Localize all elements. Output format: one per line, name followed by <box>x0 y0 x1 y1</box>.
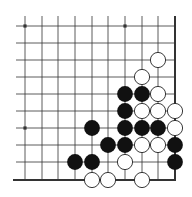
go-board <box>0 0 192 197</box>
white-stone <box>134 103 149 118</box>
white-stone <box>150 103 165 118</box>
black-stone <box>117 86 133 102</box>
black-stone <box>84 154 100 170</box>
white-stone <box>134 137 149 152</box>
black-stone <box>117 103 133 119</box>
white-stone <box>134 172 149 187</box>
black-stone <box>134 86 150 102</box>
white-stone <box>150 137 165 152</box>
black-stone <box>167 137 183 153</box>
black-stone <box>117 137 133 153</box>
white-stone <box>134 69 149 84</box>
white-stone <box>150 52 165 67</box>
star-point <box>23 24 26 27</box>
black-stone <box>100 137 116 153</box>
black-stone <box>134 120 150 136</box>
black-stone <box>167 154 183 170</box>
star-point <box>123 24 126 27</box>
white-stone <box>150 86 165 101</box>
black-stone <box>67 154 83 170</box>
black-stone <box>150 120 166 136</box>
white-stone <box>84 172 99 187</box>
white-stone <box>117 154 132 169</box>
white-stone <box>167 120 182 135</box>
star-point <box>23 126 26 129</box>
black-stone <box>117 120 133 136</box>
white-stone <box>167 103 182 118</box>
black-stone <box>84 120 100 136</box>
white-stone <box>100 172 115 187</box>
